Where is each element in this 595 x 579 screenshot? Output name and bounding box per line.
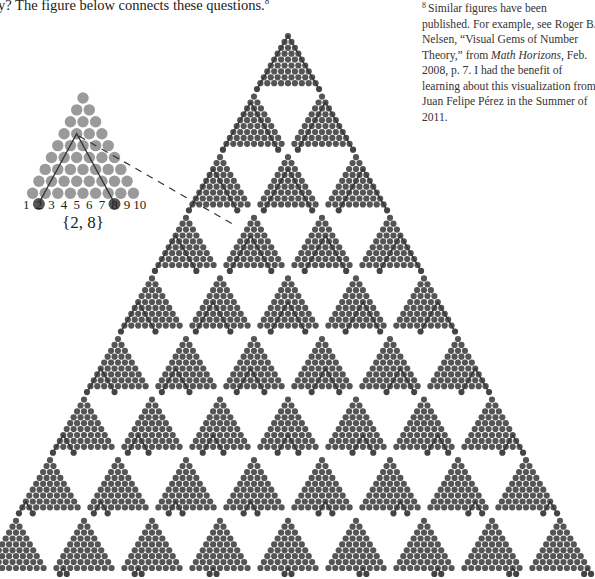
dot <box>211 262 217 268</box>
dot <box>57 475 63 481</box>
dot <box>343 559 349 565</box>
dot <box>200 305 206 311</box>
dot <box>162 371 168 377</box>
dot <box>295 62 301 68</box>
dot <box>193 232 199 238</box>
highlight-dot-b <box>588 571 594 577</box>
dot <box>278 530 284 536</box>
dot <box>356 547 362 553</box>
dot <box>332 553 338 559</box>
dot <box>472 559 478 565</box>
dot <box>313 201 319 207</box>
dot <box>261 498 267 504</box>
dot <box>374 444 380 450</box>
dot <box>319 360 325 366</box>
highlight-dot-b <box>193 268 199 274</box>
dot <box>292 201 298 207</box>
dot <box>312 504 318 510</box>
dot <box>285 154 291 160</box>
dot <box>77 535 83 541</box>
dot <box>245 323 251 329</box>
dot <box>74 408 80 414</box>
dot <box>295 172 301 178</box>
highlight-dot-b <box>111 389 117 395</box>
dot <box>67 541 73 547</box>
dot <box>125 559 131 565</box>
dot <box>393 323 399 329</box>
dot <box>332 432 338 438</box>
dot <box>251 469 257 475</box>
dot <box>380 348 386 354</box>
dot <box>295 195 301 201</box>
dot <box>526 463 532 469</box>
dot <box>414 530 420 536</box>
highlight-dot-a <box>302 268 308 274</box>
dot <box>128 553 134 559</box>
dot <box>142 323 148 329</box>
dot <box>400 444 406 450</box>
dot <box>40 493 46 499</box>
dot <box>237 141 243 147</box>
dot <box>292 420 298 426</box>
dot <box>95 553 101 559</box>
dot <box>404 317 410 323</box>
dot <box>322 342 328 348</box>
dot <box>533 475 539 481</box>
dot <box>292 432 298 438</box>
dot <box>329 256 335 262</box>
dot <box>557 530 563 536</box>
dot <box>227 438 233 444</box>
dot <box>145 414 151 420</box>
dot <box>224 444 230 450</box>
dot <box>227 172 233 178</box>
dot <box>513 559 519 565</box>
dot <box>417 438 423 444</box>
dot <box>223 504 229 510</box>
dot <box>387 493 393 499</box>
dot <box>574 559 580 565</box>
dot <box>128 323 134 329</box>
dot <box>265 481 271 487</box>
dot <box>309 317 315 323</box>
dot <box>203 190 209 196</box>
dot <box>281 317 287 323</box>
dot <box>438 559 444 565</box>
dot <box>424 293 430 299</box>
dot <box>281 195 287 201</box>
dot <box>275 293 281 299</box>
dot <box>475 553 481 559</box>
dot <box>557 565 563 571</box>
dot <box>241 317 247 323</box>
dot <box>268 305 274 311</box>
dot <box>448 481 454 487</box>
dot <box>397 487 403 493</box>
dot <box>353 154 359 160</box>
dot <box>231 323 237 329</box>
dot <box>509 493 515 499</box>
dot <box>156 432 162 438</box>
dot <box>533 487 539 493</box>
dot <box>142 565 148 571</box>
dot <box>360 420 366 426</box>
dot <box>231 311 237 317</box>
dot <box>6 565 12 571</box>
dot <box>553 547 559 553</box>
dot <box>190 250 196 256</box>
dot <box>0 547 2 553</box>
dot <box>71 438 77 444</box>
dot <box>506 547 512 553</box>
dot <box>374 553 380 559</box>
dot <box>91 438 97 444</box>
dot <box>261 317 267 323</box>
dot <box>139 293 145 299</box>
dot <box>428 408 434 414</box>
dot <box>305 117 311 123</box>
dot <box>271 299 277 305</box>
dot <box>424 547 430 553</box>
dot <box>149 565 155 571</box>
dot <box>441 504 447 510</box>
dot <box>145 559 151 565</box>
dot <box>513 475 519 481</box>
dot <box>81 530 87 536</box>
dot <box>20 565 26 571</box>
